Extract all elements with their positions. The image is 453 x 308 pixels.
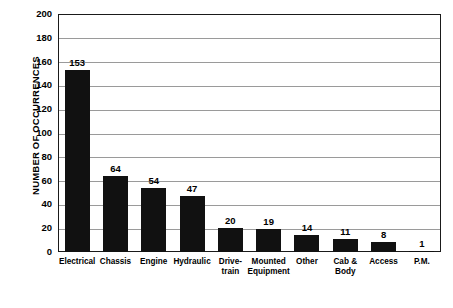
x-tick-label-line: Body <box>318 267 372 277</box>
bar-chart: NUMBER OF OCCURRENCES 020406080100120140… <box>0 0 453 308</box>
x-tick-label-line: P.M. <box>395 257 449 267</box>
x-axis-category-labels: ElectricalChassisEngineHydraulicDrive-tr… <box>0 0 453 308</box>
x-tick-label-line: Equipment <box>242 267 296 277</box>
x-tick-label: P.M. <box>395 257 449 267</box>
